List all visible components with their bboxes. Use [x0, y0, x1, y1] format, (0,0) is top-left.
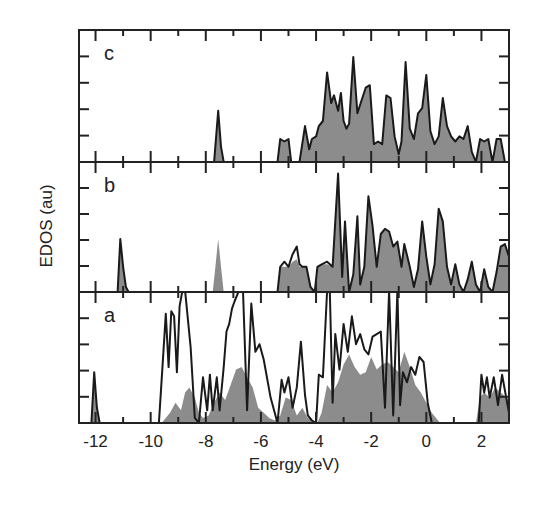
x-tick-label: -4	[308, 432, 323, 451]
axis-ticks	[79, 30, 509, 423]
panel-c-plot	[79, 57, 509, 162]
partial-dos-fill	[79, 352, 509, 423]
x-tick-label: 2	[477, 432, 486, 451]
x-tick-label: -8	[198, 432, 213, 451]
total-dos-line	[79, 291, 509, 423]
panel-label-c: c	[104, 42, 114, 64]
x-tick-label: -12	[83, 432, 108, 451]
plot-area	[79, 57, 509, 423]
edos-chart: cba -12-10-8-6-4-202 Energy (eV) EDOS (a…	[0, 0, 536, 511]
panel-b-plot	[79, 174, 509, 293]
panel-label-a: a	[104, 304, 116, 326]
x-tick-labels: -12-10-8-6-4-202	[83, 432, 486, 451]
x-tick-label: -6	[253, 432, 268, 451]
y-axis-title: EDOS (au)	[37, 184, 56, 267]
panel-a-plot	[79, 291, 509, 423]
x-tick-label: -10	[138, 432, 163, 451]
x-axis-title: Energy (eV)	[249, 455, 340, 474]
panel-labels: cba	[104, 42, 116, 326]
x-tick-label: 0	[422, 432, 431, 451]
panel-frames	[79, 30, 509, 423]
panel-label-b: b	[104, 174, 115, 196]
x-tick-label: -2	[364, 432, 379, 451]
